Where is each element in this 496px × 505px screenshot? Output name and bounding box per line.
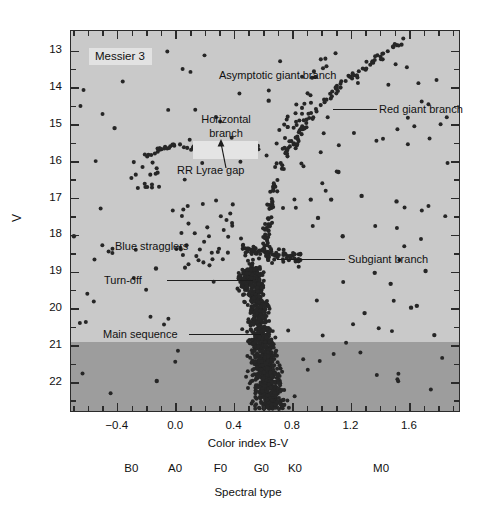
- x-tick-minor-top: [248, 31, 250, 36]
- y-tick-minor: [71, 253, 76, 255]
- y-tick-major-right: [451, 198, 459, 200]
- y-tick-minor: [71, 327, 76, 329]
- y-tick-minor: [71, 400, 76, 402]
- x-tick-major-top: [117, 31, 119, 39]
- x-tick-major-top: [234, 31, 236, 39]
- y-tick-major: [71, 198, 79, 200]
- y-tick-label: 15: [32, 118, 62, 130]
- x-tick-label: 0.0: [153, 420, 197, 432]
- x-tick-minor: [190, 406, 192, 411]
- x-tick-minor: [278, 406, 280, 411]
- y-tick-minor-right: [454, 216, 459, 218]
- x-tick-minor-top: [132, 31, 134, 36]
- y-tick-major: [71, 161, 79, 163]
- x-tick-minor: [73, 406, 75, 411]
- x-tick-minor: [102, 406, 104, 411]
- y-tick-label: 18: [32, 228, 62, 240]
- y-tick-minor: [71, 179, 76, 181]
- y-tick-minor-right: [454, 106, 459, 108]
- spectral-type-tick-label: G0: [243, 462, 279, 474]
- spectral-type-tick-label: K0: [277, 462, 313, 474]
- x-tick-major-top: [409, 31, 411, 39]
- x-tick-minor-top: [161, 31, 163, 36]
- x-tick-minor: [307, 406, 309, 411]
- x-tick-minor-top: [307, 31, 309, 36]
- y-tick-label: 22: [32, 376, 62, 388]
- x-tick-minor-top: [453, 31, 455, 36]
- x-tick-major: [175, 403, 177, 411]
- x-tick-minor: [205, 406, 207, 411]
- y-tick-label: 16: [32, 155, 62, 167]
- x-tick-minor-top: [278, 31, 280, 36]
- y-axis-title: V: [10, 214, 24, 222]
- x-tick-minor-top: [263, 31, 265, 36]
- y-tick-major-right: [451, 308, 459, 310]
- spectral-type-axis-title: Spectral type: [0, 486, 496, 498]
- y-tick-minor-right: [454, 290, 459, 292]
- x-tick-minor: [132, 406, 134, 411]
- y-tick-major-right: [451, 124, 459, 126]
- y-tick-minor-right: [454, 179, 459, 181]
- x-tick-minor: [453, 406, 455, 411]
- x-tick-minor-top: [395, 31, 397, 36]
- x-tick-minor: [424, 406, 426, 411]
- x-tick-minor-top: [219, 31, 221, 36]
- y-tick-minor: [71, 69, 76, 71]
- x-tick-minor: [248, 406, 250, 411]
- spectral-type-tick-label: F0: [202, 462, 238, 474]
- y-tick-major: [71, 272, 79, 274]
- y-tick-minor-right: [454, 69, 459, 71]
- x-tick-label: 0.4: [212, 420, 256, 432]
- y-tick-minor: [71, 290, 76, 292]
- x-tick-major: [234, 403, 236, 411]
- y-tick-label: 17: [32, 192, 62, 204]
- y-tick-minor: [71, 143, 76, 145]
- x-tick-major: [117, 403, 119, 411]
- x-tick-major: [351, 403, 353, 411]
- x-tick-minor: [146, 406, 148, 411]
- y-tick-minor: [71, 216, 76, 218]
- y-tick-minor: [71, 364, 76, 366]
- x-tick-major: [409, 403, 411, 411]
- x-tick-minor: [263, 406, 265, 411]
- x-tick-major-top: [175, 31, 177, 39]
- y-tick-label: 20: [32, 302, 62, 314]
- spectral-type-tick-label: M0: [363, 462, 399, 474]
- x-tick-minor: [88, 406, 90, 411]
- x-tick-minor: [365, 406, 367, 411]
- x-tick-minor-top: [190, 31, 192, 36]
- y-tick-minor-right: [454, 400, 459, 402]
- y-tick-label: 14: [32, 81, 62, 93]
- x-tick-minor-top: [88, 31, 90, 36]
- star-scatter-points: [71, 31, 459, 411]
- y-tick-minor-right: [454, 327, 459, 329]
- y-tick-major: [71, 382, 79, 384]
- x-tick-minor-top: [336, 31, 338, 36]
- plot-area: Messier 3 Asymptotic giant branch Red gi…: [70, 30, 460, 412]
- x-tick-minor-top: [424, 31, 426, 36]
- x-tick-minor-top: [380, 31, 382, 36]
- x-tick-label: 1.6: [387, 420, 431, 432]
- x-tick-label: 0.8: [270, 420, 314, 432]
- x-tick-major-top: [351, 31, 353, 39]
- y-tick-minor: [71, 106, 76, 108]
- spectral-type-tick-label: B0: [113, 462, 149, 474]
- y-tick-major: [71, 87, 79, 89]
- y-tick-major: [71, 345, 79, 347]
- x-tick-minor-top: [73, 31, 75, 36]
- x-tick-minor: [336, 406, 338, 411]
- y-tick-label: 21: [32, 339, 62, 351]
- y-tick-major-right: [451, 161, 459, 163]
- y-tick-major-right: [451, 345, 459, 347]
- x-tick-major: [292, 403, 294, 411]
- y-tick-label: 19: [32, 265, 62, 277]
- y-tick-minor-right: [454, 143, 459, 145]
- x-tick-minor-top: [205, 31, 207, 36]
- y-tick-major-right: [451, 382, 459, 384]
- x-axis-title: Color index B-V: [0, 437, 496, 449]
- y-tick-major: [71, 235, 79, 237]
- y-tick-major: [71, 124, 79, 126]
- y-tick-minor-right: [454, 253, 459, 255]
- x-tick-major-top: [292, 31, 294, 39]
- y-tick-minor-right: [454, 364, 459, 366]
